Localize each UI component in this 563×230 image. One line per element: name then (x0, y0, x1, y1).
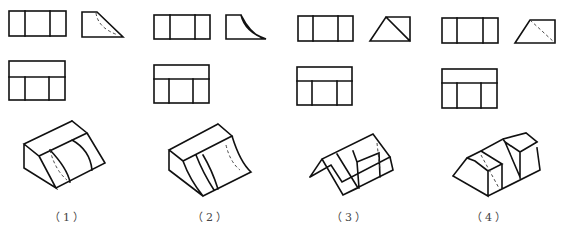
visible-edges (515, 20, 555, 43)
side-view-1 (82, 12, 123, 37)
problem-4 (442, 18, 555, 196)
drawing-canvas (0, 0, 563, 230)
top-view-3 (297, 67, 352, 105)
visible-edges (310, 134, 393, 195)
problem-3 (297, 16, 410, 195)
top-view-1 (9, 61, 65, 100)
front-view-2 (154, 15, 210, 39)
side-view-4 (515, 20, 555, 43)
visible-edges (169, 124, 251, 196)
problem-label-4: （4） (471, 208, 509, 224)
problem-2 (154, 15, 266, 196)
problem-1 (9, 11, 123, 188)
side-view-3 (370, 17, 410, 41)
hidden-edges (226, 145, 240, 170)
problem-label-1: （1） (49, 208, 87, 224)
visible-edges (82, 12, 123, 37)
problem-label-2: （2） (192, 208, 230, 224)
isometric-view-4 (453, 133, 540, 196)
visible-edges (226, 15, 266, 39)
isometric-view-3 (310, 134, 393, 195)
hidden-edges (530, 20, 555, 43)
visible-edges (370, 17, 410, 41)
top-view-2 (154, 65, 209, 103)
visible-edges (453, 133, 540, 196)
isometric-view-1 (24, 121, 105, 188)
hidden-edges (50, 150, 67, 180)
top-view-4 (442, 69, 497, 108)
three-view-exercise-figure: （1）（2）（3）（4） (0, 0, 563, 230)
front-view-1 (9, 11, 66, 36)
front-view-3 (298, 16, 353, 41)
isometric-view-2 (169, 124, 251, 196)
problem-label-3: （3） (331, 208, 369, 224)
front-view-4 (442, 18, 498, 43)
side-view-2 (226, 15, 266, 39)
hidden-edges (96, 13, 118, 35)
visible-edges (24, 121, 105, 188)
